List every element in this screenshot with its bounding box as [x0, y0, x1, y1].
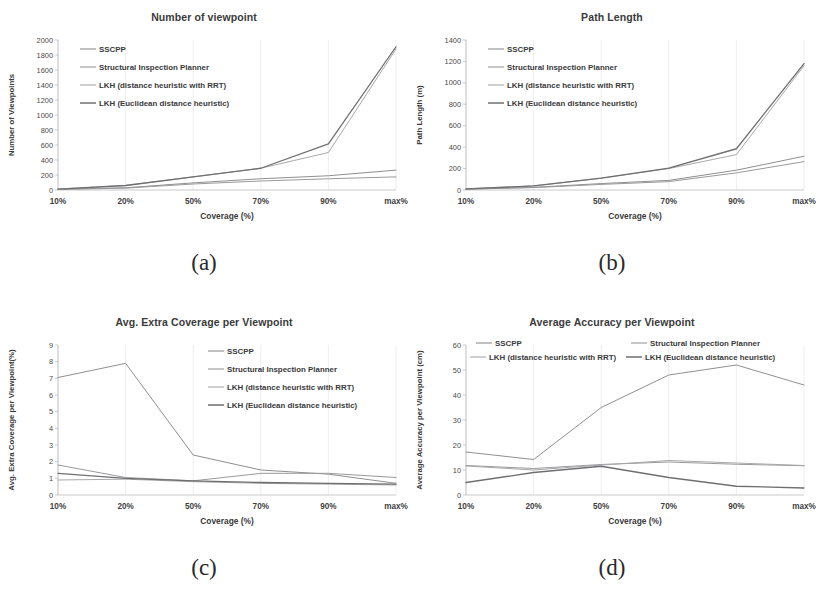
chart-title-c: Avg. Extra Coverage per Viewpoint	[0, 305, 408, 331]
x-axis-label: Coverage (%)	[200, 516, 254, 526]
series-line-1	[58, 177, 396, 190]
legend-label-2: LKH (distance heuristic with RRT)	[489, 353, 617, 362]
chart-svg-c: 012345678910%20%50%70%90%max%Coverage (%…	[0, 331, 408, 541]
chart-title-b: Path Length	[408, 0, 816, 26]
y-tick-label: 60	[453, 341, 461, 350]
y-tick-label: 1	[49, 474, 53, 483]
x-tick-label: 10%	[50, 502, 67, 511]
y-tick-label: 3	[49, 441, 53, 450]
x-tick-label: 90%	[320, 502, 337, 511]
x-tick-label: 20%	[525, 502, 542, 511]
y-tick-label: 30	[453, 416, 461, 425]
x-tick-label: 10%	[50, 197, 67, 206]
legend: SSCPPStructural Inspection PlannerLKH (d…	[470, 339, 776, 362]
y-tick-label: 800	[41, 126, 53, 135]
x-tick-label: 50%	[593, 197, 610, 206]
legend-label-3: LKH (Euclidean distance heuristic)	[227, 401, 358, 410]
legend-label-0: SSCPP	[99, 45, 126, 54]
y-tick-label: 1000	[445, 78, 461, 87]
y-tick-label: 2	[49, 457, 53, 466]
subfigure-label-d: (d)	[408, 555, 816, 581]
legend-label-0: SSCPP	[507, 45, 534, 54]
plot-area-d: 010203040506010%20%50%70%90%max%Coverage…	[408, 331, 816, 541]
legend-label-0: SSCPP	[227, 347, 254, 356]
x-tick-label: 10%	[458, 197, 475, 206]
y-tick-label: 2000	[37, 36, 53, 45]
series-line-2	[466, 461, 804, 471]
x-tick-label: 50%	[185, 502, 202, 511]
x-tick-label: 90%	[320, 197, 337, 206]
x-tick-label: max%	[384, 502, 408, 511]
legend-label-1: Structural Inspection Planner	[227, 365, 337, 374]
x-tick-label: 70%	[253, 197, 270, 206]
legend: SSCPPStructural Inspection PlannerLKH (d…	[80, 45, 230, 108]
plot-area-b: 020040060080010001200140010%20%50%70%90%…	[408, 26, 816, 236]
y-tick-label: 20	[453, 441, 461, 450]
legend: SSCPPStructural Inspection PlannerLKH (d…	[208, 347, 358, 410]
y-tick-label: 400	[449, 143, 461, 152]
chart-title-a: Number of viewpoint	[0, 0, 408, 26]
y-axis-label: Avg. Extra Coverage per Viewpoint(%)	[7, 349, 16, 491]
chart-panel-c: Avg. Extra Coverage per Viewpoint 012345…	[0, 305, 408, 611]
y-tick-label: 4	[49, 424, 53, 433]
chart-svg-d: 010203040506010%20%50%70%90%max%Coverage…	[408, 331, 816, 541]
x-tick-label: max%	[384, 197, 408, 206]
series-line-1	[58, 465, 396, 481]
x-axis-label: Coverage (%)	[608, 211, 662, 221]
y-tick-label: 0	[49, 186, 53, 195]
chart-svg-a: 020040060080010001200140016001800200010%…	[0, 26, 408, 236]
subfigure-label-a: (a)	[0, 250, 408, 276]
legend-label-3: LKH (Euclidean distance heuristic)	[507, 99, 638, 108]
x-tick-label: 10%	[458, 502, 475, 511]
y-tick-label: 9	[49, 341, 53, 350]
x-tick-label: max%	[792, 502, 816, 511]
x-axis-label: Coverage (%)	[200, 211, 254, 221]
x-tick-label: 70%	[253, 502, 270, 511]
legend-label-1: Structural Inspection Planner	[650, 339, 760, 348]
series-line-0	[466, 365, 804, 460]
y-tick-label: 600	[449, 121, 461, 130]
plot-area-c: 012345678910%20%50%70%90%max%Coverage (%…	[0, 331, 408, 541]
legend-label-0: SSCPP	[495, 339, 522, 348]
y-tick-label: 0	[49, 491, 53, 500]
x-tick-label: 70%	[661, 502, 678, 511]
y-tick-label: 50	[453, 366, 461, 375]
y-tick-label: 1200	[37, 96, 53, 105]
y-tick-label: 200	[449, 164, 461, 173]
legend-label-2: LKH (distance heuristic with RRT)	[227, 383, 355, 392]
chart-panel-a: Number of viewpoint 02004006008001000120…	[0, 0, 408, 305]
y-axis-label: Average Accuracy per Viewpoint (cm)	[415, 350, 424, 490]
x-tick-label: 90%	[728, 197, 745, 206]
y-tick-label: 0	[457, 491, 461, 500]
y-tick-label: 5	[49, 407, 53, 416]
subfigure-label-b: (b)	[408, 250, 816, 276]
figure-grid: Number of viewpoint 02004006008001000120…	[0, 0, 816, 611]
x-axis-label: Coverage (%)	[608, 516, 662, 526]
y-tick-label: 1800	[37, 51, 53, 60]
y-tick-label: 8	[49, 357, 53, 366]
chart-title-d: Average Accuracy per Viewpoint	[408, 305, 816, 331]
subfigure-label-c: (c)	[0, 555, 408, 581]
y-axis-label: Number of Viewpoints	[7, 73, 16, 156]
chart-panel-d: Average Accuracy per Viewpoint 010203040…	[408, 305, 816, 611]
plot-area-a: 020040060080010001200140016001800200010%…	[0, 26, 408, 236]
legend-label-1: Structural Inspection Planner	[99, 63, 209, 72]
legend-label-2: LKH (distance heuristic with RRT)	[507, 81, 635, 90]
x-tick-label: 70%	[661, 197, 678, 206]
y-tick-label: 40	[453, 391, 461, 400]
legend-label-3: LKH (Euclidean distance heuristic)	[645, 353, 776, 362]
y-tick-label: 600	[41, 141, 53, 150]
x-tick-label: max%	[792, 197, 816, 206]
legend-label-3: LKH (Euclidean distance heuristic)	[99, 99, 230, 108]
x-tick-label: 50%	[185, 197, 202, 206]
chart-svg-b: 020040060080010001200140010%20%50%70%90%…	[408, 26, 816, 236]
y-tick-label: 200	[41, 171, 53, 180]
y-tick-label: 0	[457, 186, 461, 195]
y-tick-label: 10	[453, 466, 461, 475]
y-tick-label: 1600	[37, 66, 53, 75]
legend-label-2: LKH (distance heuristic with RRT)	[99, 81, 227, 90]
y-axis-label: Path Length (m)	[415, 85, 424, 145]
y-tick-label: 800	[449, 100, 461, 109]
y-tick-label: 400	[41, 156, 53, 165]
series-line-1	[466, 162, 804, 190]
